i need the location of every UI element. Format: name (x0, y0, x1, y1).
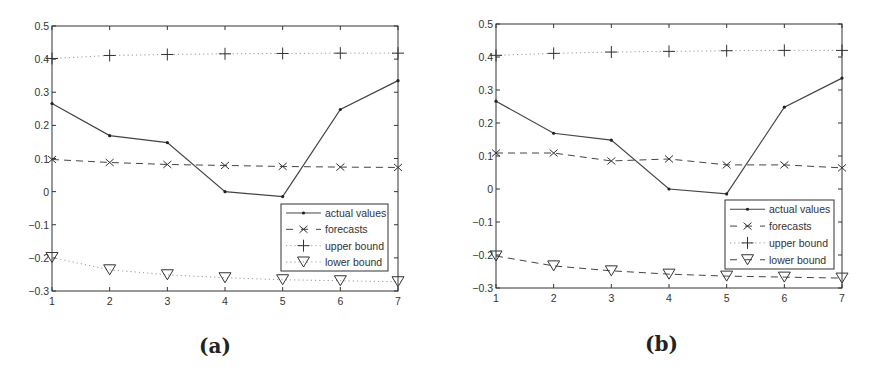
chart-b: 1234567−0.3−0.2−0.100.10.20.30.40.5actua… (444, 0, 876, 377)
y-tick-label: −0.2 (28, 252, 49, 264)
legend-label: forecasts (769, 220, 812, 232)
y-tick-label: −0.3 (28, 285, 49, 297)
dot-marker-icon (494, 100, 497, 103)
plus-marker-icon (778, 44, 790, 56)
plus-marker-icon (219, 48, 231, 60)
triangle-down-marker-icon (161, 270, 173, 280)
plus-marker-icon (161, 48, 173, 60)
legend-label: actual values (325, 207, 386, 219)
x-tick-label: 6 (337, 295, 343, 307)
series-actual-values (50, 79, 399, 198)
plus-marker-icon (277, 47, 289, 59)
figure-a: 1234567−0.3−0.2−0.100.10.20.30.40.5actua… (0, 0, 432, 377)
plus-marker-icon (836, 44, 848, 56)
dot-marker-icon (108, 134, 111, 137)
y-tick-label: 0.2 (34, 119, 49, 131)
y-tick-label: 0.5 (34, 20, 49, 32)
y-tick-label: 0 (487, 183, 493, 195)
y-tick-label: −0.3 (472, 282, 493, 294)
dot-marker-icon (223, 190, 226, 193)
series-actual-values (494, 77, 843, 196)
y-tick-label: −0.1 (472, 216, 493, 228)
legend-label: lower bound (325, 256, 382, 268)
chart-a: 1234567−0.3−0.2−0.100.10.20.30.40.5actua… (0, 0, 432, 377)
y-tick-label: 0.3 (34, 86, 49, 98)
dot-marker-icon (783, 106, 786, 109)
dot-marker-icon (281, 195, 284, 198)
triangle-down-marker-icon (219, 273, 231, 283)
y-tick-label: 0.1 (478, 150, 493, 162)
x-tick-label: 4 (666, 292, 672, 304)
dot-marker-icon (552, 132, 555, 135)
x-tick-label: 3 (164, 295, 170, 307)
y-tick-label: 0.1 (34, 153, 49, 165)
plus-marker-icon (663, 45, 675, 57)
legend-label: forecasts (325, 223, 368, 235)
plus-marker-icon (104, 49, 116, 61)
dot-marker-icon (166, 141, 169, 144)
dot-marker-icon (725, 192, 728, 195)
dot-marker-icon (302, 211, 305, 214)
dot-marker-icon (746, 208, 749, 211)
y-tick-label: −0.1 (28, 219, 49, 231)
plus-marker-icon (334, 47, 346, 59)
series-forecasts (48, 156, 402, 171)
x-tick-label: 5 (724, 292, 730, 304)
x-tick-label: 7 (395, 295, 401, 307)
x-tick-label: 5 (280, 295, 286, 307)
x-tick-label: 6 (781, 292, 787, 304)
x-tick-label: 1 (493, 292, 499, 304)
y-tick-label: 0.4 (478, 51, 493, 63)
x-tick-label: 1 (49, 295, 55, 307)
legend-label: upper bound (325, 240, 384, 252)
x-tick-label: 7 (839, 292, 845, 304)
dot-marker-icon (840, 77, 843, 80)
x-tick-label: 3 (608, 292, 614, 304)
y-tick-label: 0 (43, 186, 49, 198)
triangle-down-marker-icon (277, 275, 289, 285)
legend: actual valuesforecastsupper boundlower b… (281, 204, 388, 271)
plus-marker-icon (392, 47, 404, 59)
dot-marker-icon (396, 79, 399, 82)
legend-label: actual values (769, 203, 830, 215)
legend: actual valuesforecastsupper boundlower b… (725, 200, 834, 269)
y-tick-label: 0.2 (478, 117, 493, 129)
series-upper-bound (490, 44, 848, 61)
legend-label: lower bound (769, 254, 826, 266)
dot-marker-icon (50, 102, 53, 105)
plus-marker-icon (605, 46, 617, 58)
plus-marker-icon (721, 45, 733, 57)
subfigure-label-a: (a) (199, 334, 231, 358)
plus-marker-icon (548, 47, 560, 59)
y-tick-label: 0.4 (34, 53, 49, 65)
figure-b: 1234567−0.3−0.2−0.100.10.20.30.40.5actua… (444, 0, 876, 377)
legend-label: upper bound (769, 237, 828, 249)
x-tick-label: 4 (222, 295, 228, 307)
dot-marker-icon (610, 139, 613, 142)
subfigure-label-b: (b) (645, 332, 678, 356)
x-tick-label: 2 (107, 295, 113, 307)
dot-marker-icon (667, 187, 670, 190)
dot-marker-icon (339, 108, 342, 111)
series-forecasts (492, 150, 846, 172)
x-tick-label: 2 (551, 292, 557, 304)
y-tick-label: 0.5 (478, 18, 493, 30)
y-tick-label: 0.3 (478, 84, 493, 96)
series-upper-bound (46, 47, 404, 64)
